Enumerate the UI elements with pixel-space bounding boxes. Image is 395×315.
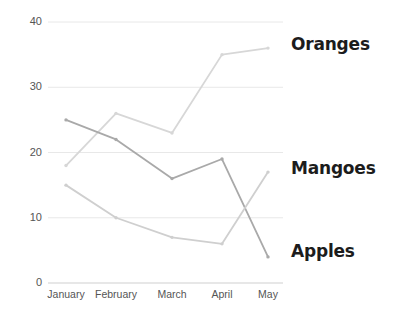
data-point-mangoes-3	[220, 157, 223, 160]
data-point-oranges-4	[266, 46, 269, 49]
y-tick-20: 20	[8, 147, 42, 158]
data-point-mangoes-0	[64, 118, 67, 121]
data-point-apples-4	[266, 170, 269, 173]
y-tick-0: 0	[8, 277, 42, 288]
y-tick-40: 40	[8, 16, 42, 27]
data-point-oranges-0	[64, 164, 67, 167]
data-point-oranges-3	[220, 53, 223, 56]
series-line-oranges	[66, 48, 268, 165]
y-tick-10: 10	[8, 212, 42, 223]
data-point-oranges-2	[170, 131, 173, 134]
data-point-apples-3	[220, 242, 223, 245]
data-point-apples-1	[114, 216, 117, 219]
legend-label-apples: Apples	[291, 243, 355, 260]
data-point-mangoes-4	[266, 255, 269, 258]
data-point-apples-2	[170, 236, 173, 239]
line-chart: 010203040 JanuaryFebruaryMarchAprilMay O…	[0, 0, 395, 315]
legend-label-mangoes: Mangoes	[291, 160, 376, 177]
gridlines	[48, 22, 283, 283]
series-line-apples	[66, 172, 268, 244]
legend-label-oranges: Oranges	[291, 36, 370, 53]
data-point-oranges-1	[114, 112, 117, 115]
y-tick-30: 30	[8, 81, 42, 92]
data-point-apples-0	[64, 183, 67, 186]
data-point-mangoes-1	[114, 138, 117, 141]
x-tick-may: May	[228, 289, 308, 300]
data-point-mangoes-2	[170, 177, 173, 180]
